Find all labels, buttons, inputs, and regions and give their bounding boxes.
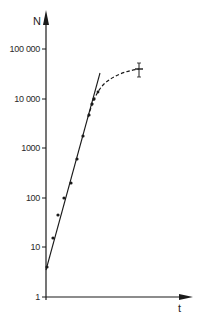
data-point (90, 102, 93, 105)
y-tick-label-100: 100 (26, 193, 40, 203)
data-point (56, 213, 59, 216)
data-point (75, 157, 78, 160)
y-ticks: 1 10 100 1000 10 000 100 000 (10, 44, 46, 302)
x-axis-label: t (178, 302, 181, 314)
data-point (87, 113, 90, 116)
saturation-curve (88, 69, 139, 117)
y-axis-label: N (33, 15, 41, 27)
x-axis-arrow-icon (179, 294, 193, 300)
data-point (92, 97, 95, 100)
error-bar-point (135, 63, 143, 77)
data-point (97, 91, 100, 94)
data-point (81, 134, 84, 137)
y-tick-label-1: 1 (35, 292, 40, 302)
data-point (62, 196, 65, 199)
data-point (69, 181, 72, 184)
data-point (45, 265, 48, 268)
y-tick-label-10000: 10 000 (14, 94, 40, 104)
y-tick-label-100000: 100 000 (10, 44, 41, 54)
y-axis-arrow-icon (43, 10, 49, 25)
y-tick-label-10: 10 (31, 242, 41, 252)
growth-chart: N t 1 10 100 1000 10 000 100 000 (0, 0, 204, 324)
data-point (51, 236, 54, 239)
y-tick-label-1000: 1000 (21, 143, 40, 153)
